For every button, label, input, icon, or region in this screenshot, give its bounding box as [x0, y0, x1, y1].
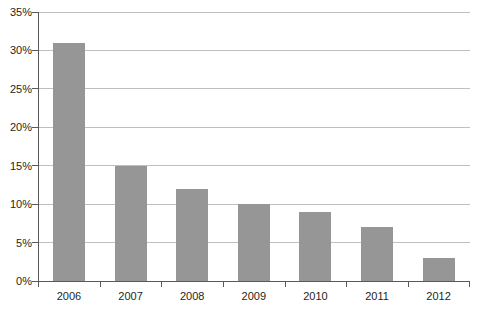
bar-2006 — [53, 43, 85, 281]
bar-2008 — [176, 189, 208, 281]
y-axis-label: 25% — [0, 83, 32, 94]
bar-2011 — [361, 227, 393, 281]
x-axis-label-2012: 2012 — [409, 291, 469, 302]
x-axis-tick — [469, 282, 470, 287]
x-axis-line — [38, 281, 470, 282]
y-axis-label: 10% — [0, 199, 32, 210]
y-axis-label: 15% — [0, 160, 32, 171]
x-axis-label-2008: 2008 — [162, 291, 222, 302]
y-axis-label: 35% — [0, 7, 32, 18]
y-axis-label: 0% — [0, 276, 32, 287]
bar-2007 — [115, 166, 147, 281]
y-axis-label: 5% — [0, 237, 32, 248]
y-axis-label: 20% — [0, 122, 32, 133]
bar-2012 — [423, 258, 455, 281]
x-axis-tick — [161, 282, 162, 287]
x-axis-tick — [223, 282, 224, 287]
x-axis-label-2007: 2007 — [101, 291, 161, 302]
y-axis-label: 30% — [0, 45, 32, 56]
x-axis-label-2006: 2006 — [39, 291, 99, 302]
x-axis-label-2011: 2011 — [347, 291, 407, 302]
x-axis-tick — [346, 282, 347, 287]
gridline-35pct — [38, 12, 470, 13]
x-axis-tick — [100, 282, 101, 287]
gridline-30pct — [38, 50, 470, 51]
x-axis-label-2010: 2010 — [285, 291, 345, 302]
gridline-25pct — [38, 88, 470, 89]
x-axis-tick — [285, 282, 286, 287]
x-axis-tick — [38, 282, 39, 287]
bar-2009 — [238, 204, 270, 281]
gridline-15pct — [38, 165, 470, 166]
x-axis-label-2009: 2009 — [224, 291, 284, 302]
bar-chart: 0%5%10%15%20%25%30%35% 20062007200820092… — [0, 0, 479, 311]
y-axis-line — [38, 12, 39, 282]
bar-2010 — [299, 212, 331, 281]
gridline-20pct — [38, 127, 470, 128]
x-axis-tick — [408, 282, 409, 287]
